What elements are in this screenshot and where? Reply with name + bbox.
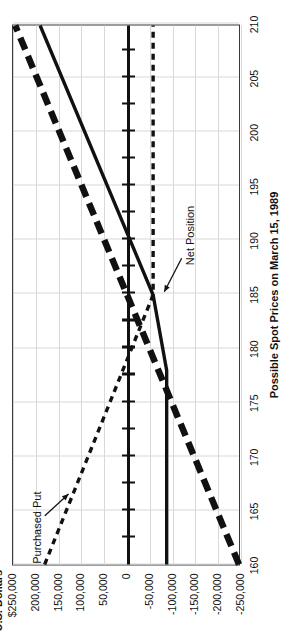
chart-canvas: $250,000200,000150,000100,00050,0000-50,… <box>0 0 306 637</box>
arrow-net-position <box>164 258 181 292</box>
arrow-purchased-put <box>45 494 69 516</box>
rotated-chart-group: $250,000200,000150,000100,00050,0000-50,… <box>0 0 306 637</box>
annotation-arrows <box>0 0 306 637</box>
